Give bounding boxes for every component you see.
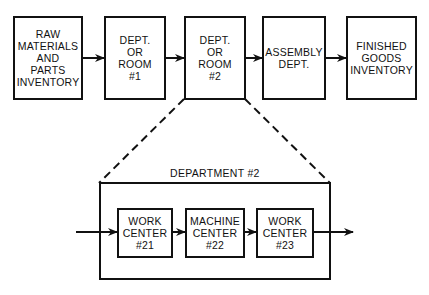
work-center-23-label: WORK CENTER #23 bbox=[263, 215, 307, 251]
dept-room-2-label: DEPT. OR ROOM #2 bbox=[198, 34, 231, 82]
raw-materials-label: RAW MATERIALS AND PARTS INVENTORY bbox=[17, 28, 80, 88]
work-center-23-box: WORK CENTER #23 bbox=[256, 208, 314, 258]
dept-room-1-label: DEPT. OR ROOM #1 bbox=[118, 34, 151, 82]
work-center-21-box: WORK CENTER #21 bbox=[117, 208, 173, 258]
finished-goods-label: FINISHED GOODS INVENTORY bbox=[350, 40, 413, 76]
machine-center-22-label: MACHINE CENTER #22 bbox=[190, 215, 240, 251]
assembly-dept-box: ASSEMBLY DEPT. bbox=[262, 16, 326, 100]
dept-room-1-box: DEPT. OR ROOM #1 bbox=[104, 16, 166, 100]
dept-room-2-box: DEPT. OR ROOM #2 bbox=[184, 16, 246, 100]
finished-goods-box: FINISHED GOODS INVENTORY bbox=[346, 16, 417, 100]
machine-center-22-box: MACHINE CENTER #22 bbox=[185, 208, 245, 258]
work-center-21-label: WORK CENTER #21 bbox=[123, 215, 167, 251]
raw-materials-box: RAW MATERIALS AND PARTS INVENTORY bbox=[13, 16, 83, 100]
department-2-title: DEPARTMENT #2 bbox=[170, 167, 260, 179]
assembly-dept-label: ASSEMBLY DEPT. bbox=[265, 46, 322, 70]
